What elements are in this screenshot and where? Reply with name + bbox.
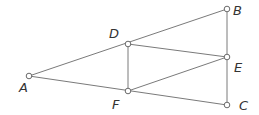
label-f: F <box>112 97 120 112</box>
point-f <box>125 88 131 94</box>
segment-fe <box>128 57 227 91</box>
point-e <box>224 54 230 60</box>
label-d: D <box>109 26 119 41</box>
label-e: E <box>234 60 243 75</box>
segment-de <box>128 44 227 57</box>
label-b: B <box>233 3 242 18</box>
point-d <box>125 41 131 47</box>
labels-group: ADFBEC <box>18 3 249 113</box>
point-c <box>224 102 230 108</box>
geometry-diagram: ADFBEC <box>0 0 259 115</box>
label-c: C <box>239 98 249 113</box>
point-a <box>26 73 32 79</box>
point-b <box>224 6 230 12</box>
diagram-svg: ADFBEC <box>0 0 259 115</box>
label-a: A <box>18 80 28 95</box>
